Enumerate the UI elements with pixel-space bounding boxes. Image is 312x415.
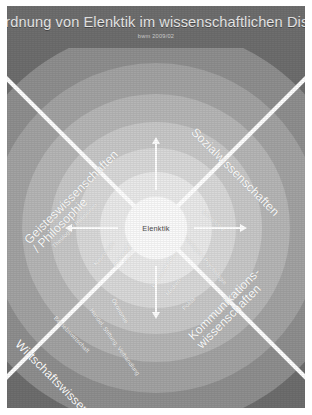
slide-canvas: Einordnung von Elenktik im wissenschaftl… [7, 6, 305, 408]
arrow-shaft [155, 140, 157, 190]
slide-header: Einordnung von Elenktik im wissenschaftl… [7, 6, 305, 52]
center-label: Elenktik [142, 224, 169, 233]
page-title: Einordnung von Elenktik im wissenschaftl… [7, 14, 305, 30]
arrow-head [152, 137, 160, 144]
slide-subtitle: bwm 2009/02 [138, 33, 174, 39]
arrow-shaft [155, 266, 157, 316]
arrow-head [65, 224, 72, 232]
arrow-head [152, 312, 160, 319]
scanned-page: Einordnung von Elenktik im wissenschaftl… [0, 0, 312, 415]
arrow-head [240, 224, 247, 232]
arrow-shaft [194, 227, 244, 229]
center-bubble: Elenktik [125, 197, 187, 259]
diagram-stage: Theologie / Religionen Neurologie Philos… [7, 48, 305, 408]
arrow-shaft [68, 227, 118, 229]
